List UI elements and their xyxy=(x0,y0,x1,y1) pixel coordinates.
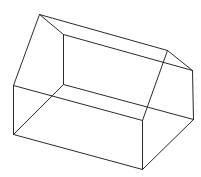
wireframe-house-diagram xyxy=(0,0,201,177)
edge-PF xyxy=(143,51,168,121)
edge-GR xyxy=(143,120,194,170)
edge-AP xyxy=(40,15,168,51)
edge-AC xyxy=(14,15,40,86)
edge-ER xyxy=(64,85,194,120)
edge-DG xyxy=(14,135,143,170)
wireframe-canvas xyxy=(0,0,201,177)
edge-QR xyxy=(193,71,194,120)
